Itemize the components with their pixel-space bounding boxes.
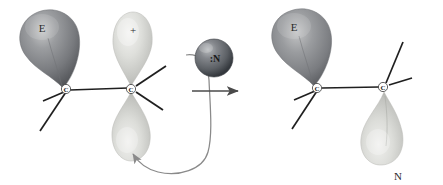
product-orbital-E-label: E — [291, 21, 298, 33]
nucleophile-label: :N — [210, 53, 221, 64]
product-carbon-right-label: C — [380, 84, 385, 92]
reactant-carbon-right-label: C — [128, 86, 133, 94]
reactant-orbital-plus-label: + — [130, 24, 136, 36]
reactant-orbital-E-label: E — [39, 22, 46, 34]
product-carbon-left-label: C — [314, 85, 319, 93]
reaction-mechanism-figure: E + C — [0, 0, 443, 185]
reactant-carbon-left-label: C — [63, 86, 68, 94]
product-orbital-N-label: N — [394, 170, 402, 182]
product-sigma-bond — [322, 87, 379, 88]
nucleophile-sphere: :N — [195, 39, 233, 77]
